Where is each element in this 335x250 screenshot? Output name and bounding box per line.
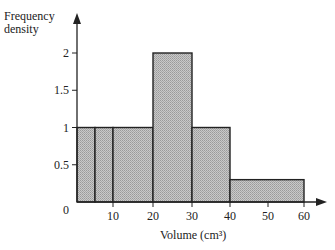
histogram-bar xyxy=(95,128,113,203)
x-tick-label: 60 xyxy=(298,209,310,223)
y-axis-label-line2: density xyxy=(4,23,64,36)
y-tick-label: 1.5 xyxy=(54,83,69,97)
y-tick-label: 2 xyxy=(63,46,69,60)
histogram-bars xyxy=(77,53,304,202)
histogram-bar xyxy=(153,53,192,202)
y-tick-label: 0.5 xyxy=(54,158,69,172)
histogram-bar xyxy=(230,180,304,202)
x-tick-label: 40 xyxy=(224,209,236,223)
histogram-bar xyxy=(113,128,153,203)
histogram-bar xyxy=(192,128,230,203)
x-tick-label: 10 xyxy=(107,209,119,223)
histogram-chart: 0.511.521020304050600 xyxy=(0,0,335,250)
y-tick-label: 1 xyxy=(63,121,69,135)
x-tick-label: 20 xyxy=(147,209,159,223)
x-tick-label: 30 xyxy=(186,209,198,223)
x-tick-label: 50 xyxy=(262,209,274,223)
x-axis-label: Volume (cm³) xyxy=(160,229,226,242)
histogram-bar xyxy=(77,128,95,203)
y-axis-label: Frequency density xyxy=(4,10,64,36)
origin-label: 0 xyxy=(63,203,69,217)
